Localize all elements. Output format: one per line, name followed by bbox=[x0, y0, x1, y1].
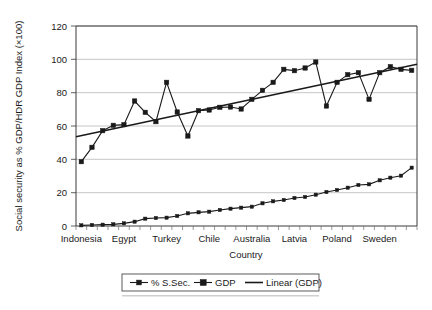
x-axis-title: Country bbox=[229, 249, 263, 260]
series-s-sec-marker bbox=[176, 214, 179, 217]
legend-label-linear-gdp: Linear (GDP) bbox=[266, 277, 322, 288]
y-axis-tick-labels: 120 100 80 60 40 20 0 bbox=[51, 21, 67, 232]
legend-label-s-sec: % S.Sec. bbox=[151, 277, 190, 288]
x-axis-category-label: Sweden bbox=[363, 233, 397, 244]
series-s-sec-marker bbox=[144, 217, 147, 220]
series-s-sec-marker bbox=[410, 166, 413, 169]
y-tick-label: 60 bbox=[56, 121, 67, 132]
series-gdp-marker bbox=[292, 68, 296, 72]
series-s-sec-marker bbox=[208, 210, 211, 213]
series-gdp-marker bbox=[228, 105, 232, 109]
series-s-sec-marker bbox=[133, 220, 136, 223]
x-axis-category-label: Turkey bbox=[152, 233, 181, 244]
series-s-sec-marker bbox=[112, 223, 115, 226]
series-gdp-marker bbox=[186, 134, 190, 138]
x-axis-category-label: Chile bbox=[198, 233, 220, 244]
series-gdp-marker bbox=[367, 97, 371, 101]
series-s-sec-marker bbox=[282, 198, 285, 201]
series-s-sec-marker bbox=[250, 205, 253, 208]
x-axis-category-label: Latvia bbox=[282, 233, 308, 244]
series-gdp-marker bbox=[79, 159, 83, 163]
series-s-sec-marker bbox=[389, 176, 392, 179]
series-s-sec-marker bbox=[122, 222, 125, 225]
x-axis-ticks bbox=[76, 226, 417, 230]
series-gdp-marker bbox=[388, 64, 392, 68]
series-s-sec-marker bbox=[272, 200, 275, 203]
y-tick-label: 20 bbox=[56, 187, 67, 198]
series-s-sec-marker bbox=[304, 195, 307, 198]
chart-legend: % S.Sec. GDP Linear (GDP) bbox=[122, 274, 322, 291]
series-s-sec-marker bbox=[357, 183, 360, 186]
series-s-sec-marker bbox=[186, 212, 189, 215]
series-s-sec-marker bbox=[325, 190, 328, 193]
series-gdp-marker bbox=[260, 88, 264, 92]
legend-marker-square-s-sec bbox=[137, 280, 142, 285]
x-axis-category-label: Poland bbox=[322, 233, 352, 244]
series-gdp-marker bbox=[314, 60, 318, 64]
series-gdp-marker bbox=[239, 107, 243, 111]
series-gdp-marker bbox=[111, 123, 115, 127]
series-s-sec-marker bbox=[218, 208, 221, 211]
series-s-sec-marker bbox=[367, 183, 370, 186]
series-s-sec-marker bbox=[346, 186, 349, 189]
x-axis-category-label: Egypt bbox=[112, 233, 137, 244]
series-s-sec-marker bbox=[378, 179, 381, 182]
series-s-sec-marker bbox=[293, 196, 296, 199]
series-gdp-marker bbox=[303, 66, 307, 70]
series-s-sec-marker bbox=[240, 206, 243, 209]
series-s-sec-marker bbox=[80, 224, 83, 227]
series-s-sec-marker bbox=[229, 207, 232, 210]
x-axis-category-label: Australia bbox=[233, 233, 271, 244]
series-gdp-marker bbox=[409, 68, 413, 72]
y-tick-label: 40 bbox=[56, 154, 67, 165]
series-s-sec-marker bbox=[335, 188, 338, 191]
series-gdp-marker bbox=[90, 145, 94, 149]
series-gdp-marker bbox=[271, 80, 275, 84]
series-gdp-marker bbox=[132, 99, 136, 103]
series-s-sec-marker bbox=[90, 223, 93, 226]
series-gdp-marker bbox=[324, 104, 328, 108]
y-tick-label: 120 bbox=[51, 21, 67, 32]
series-gdp-marker bbox=[175, 110, 179, 114]
series-gdp-marker bbox=[346, 72, 350, 76]
series-s-sec-marker bbox=[197, 211, 200, 214]
y-tick-label: 80 bbox=[56, 87, 67, 98]
y-axis-title: Social security as % GDP/HDR GDP Index (… bbox=[13, 21, 24, 232]
series-s-sec-marker bbox=[165, 216, 168, 219]
series-s-sec-marker bbox=[314, 193, 317, 196]
chart-figure: 120 100 80 60 40 20 0 Social security as… bbox=[0, 0, 432, 310]
series-gdp-marker bbox=[356, 70, 360, 74]
series-gdp-marker bbox=[164, 80, 168, 84]
series-gdp-marker bbox=[143, 110, 147, 114]
series-gdp-marker bbox=[282, 67, 286, 71]
x-axis-category-label: Indonesia bbox=[61, 233, 103, 244]
series-s-sec-marker bbox=[261, 202, 264, 205]
series-s-sec-marker bbox=[399, 174, 402, 177]
series-s-sec-marker bbox=[154, 216, 157, 219]
x-axis-category-labels: IndonesiaEgyptTurkeyChileAustraliaLatvia… bbox=[61, 233, 397, 244]
line-chart-svg: 120 100 80 60 40 20 0 Social security as… bbox=[0, 0, 432, 310]
legend-label-gdp: GDP bbox=[215, 277, 236, 288]
caption-divider bbox=[122, 295, 319, 297]
y-tick-label: 0 bbox=[62, 221, 67, 232]
y-axis-ticks bbox=[71, 26, 76, 226]
legend-marker-square-gdp bbox=[200, 280, 206, 286]
series-s-sec-marker bbox=[101, 223, 104, 226]
y-tick-label: 100 bbox=[51, 54, 67, 65]
